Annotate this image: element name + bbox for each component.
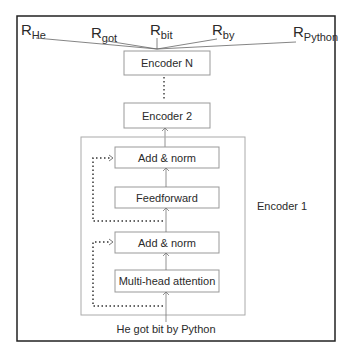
output-label-bit: Rbit xyxy=(150,21,172,41)
output-label-python: RPython xyxy=(293,23,338,43)
transformer-encoder-diagram: RHe Rgot Rbit Rby RPython Encoder N Enco… xyxy=(0,0,351,357)
input-sentence: He got bit by Python xyxy=(116,323,215,335)
encoder-2-label: Encoder 2 xyxy=(142,110,192,122)
encoder-1-label: Encoder 1 xyxy=(257,200,307,212)
output-label-he: RHe xyxy=(21,21,46,41)
add-norm-bottom-label: Add & norm xyxy=(138,237,196,249)
feedforward-label: Feedforward xyxy=(136,192,198,204)
arrowhead-icon xyxy=(109,155,113,161)
attention-label: Multi-head attention xyxy=(119,275,216,287)
encoder-n-label: Encoder N xyxy=(141,57,193,69)
add-norm-top-label: Add & norm xyxy=(138,152,196,164)
output-label-by: Rby xyxy=(212,21,235,41)
arrowhead-icon xyxy=(109,239,113,245)
output-label-got: Rgot xyxy=(91,24,117,44)
